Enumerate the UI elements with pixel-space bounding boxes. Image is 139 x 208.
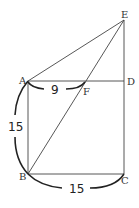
segment-be xyxy=(28,20,124,174)
point-label-c: C xyxy=(121,175,129,186)
segment-ae xyxy=(28,20,124,81)
point-label-b: B xyxy=(19,171,26,182)
measure-af: 9 xyxy=(51,83,59,97)
measure-bc: 15 xyxy=(69,182,84,196)
point-label-d: D xyxy=(127,76,135,87)
measure-ab: 15 xyxy=(8,120,23,134)
geometry-diagram: 9 15 15 A B C D E F xyxy=(0,0,139,208)
point-label-e: E xyxy=(121,9,128,20)
point-label-f: F xyxy=(83,86,90,97)
point-label-a: A xyxy=(18,75,27,86)
